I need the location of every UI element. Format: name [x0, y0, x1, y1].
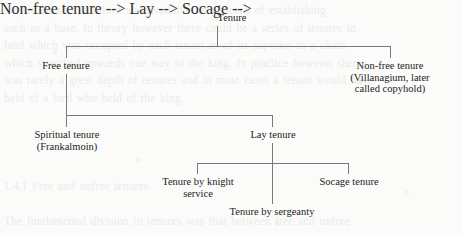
edge-free-tenure-bar	[66, 115, 273, 116]
edge-lay-tenure-bar	[197, 163, 349, 164]
tenure-diagram-page: the tenant and therefore was available a…	[0, 0, 462, 235]
node-free-tenure: Free tenure	[30, 60, 102, 72]
edge-tenure-stem	[217, 26, 218, 46]
node-nonfree-tenure: Non-free tenure (Villanagium, later call…	[330, 60, 450, 95]
edge-to-free-tenure	[66, 46, 67, 58]
scanned-page-bleedthrough-text: the tenant and therefore was available a…	[0, 0, 462, 235]
node-tenure-by-knight-service: Tenure by knight service	[148, 176, 248, 199]
paper-grain-overlay	[0, 0, 462, 235]
edge-to-lay-tenure	[272, 115, 273, 127]
node-tenure-by-sergeanty: Tenure by sergeanty	[208, 206, 336, 218]
node-tenure: Tenure	[202, 12, 262, 24]
edge-to-knight-service	[197, 163, 198, 174]
node-lay-tenure: Lay tenure	[242, 129, 304, 141]
edge-to-spiritual-tenure	[66, 115, 67, 127]
edge-to-nonfree-tenure	[390, 46, 391, 58]
edge-to-sergeanty	[272, 163, 273, 204]
node-socage-tenure: Socage tenure	[310, 176, 388, 188]
node-spiritual-tenure: Spiritual tenure (Frankalmoin)	[14, 129, 120, 152]
edge-lay-tenure-stem	[272, 143, 273, 163]
edge-free-tenure-stem	[66, 74, 67, 115]
edge-tenure-bar	[66, 46, 391, 47]
edge-to-socage-tenure	[348, 163, 349, 174]
